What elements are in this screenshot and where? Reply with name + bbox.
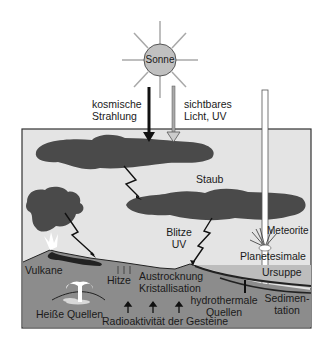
lightning-uv-label: Blitze UV xyxy=(161,226,197,250)
ursuppe-label: Ursuppe xyxy=(262,266,302,278)
heat-label: Hitze xyxy=(107,274,131,286)
visible-light-arrow-icon xyxy=(167,86,180,142)
volcano-label: Vulkane xyxy=(25,264,63,276)
cosmic-radiation-arrow-icon xyxy=(143,87,155,142)
radioactivity-label: Radioaktivität der Gesteine xyxy=(102,315,228,327)
sun-label: Sonne xyxy=(143,54,177,66)
planetesimals-label: Planetesimale xyxy=(240,250,306,262)
dust-label: Staub xyxy=(196,173,223,185)
hot-springs-label: Heiße Quellen xyxy=(36,308,103,320)
sedimentation-label: Sedimen- tation xyxy=(264,292,310,316)
cosmic-radiation-label: kosmische Strahlung xyxy=(92,98,142,122)
visible-light-label: sichtbares Licht, UV xyxy=(184,98,232,122)
drying-crystallization-label: Austrocknung Kristallisation xyxy=(139,270,203,294)
meteorite-label: Meteorite xyxy=(267,225,309,237)
